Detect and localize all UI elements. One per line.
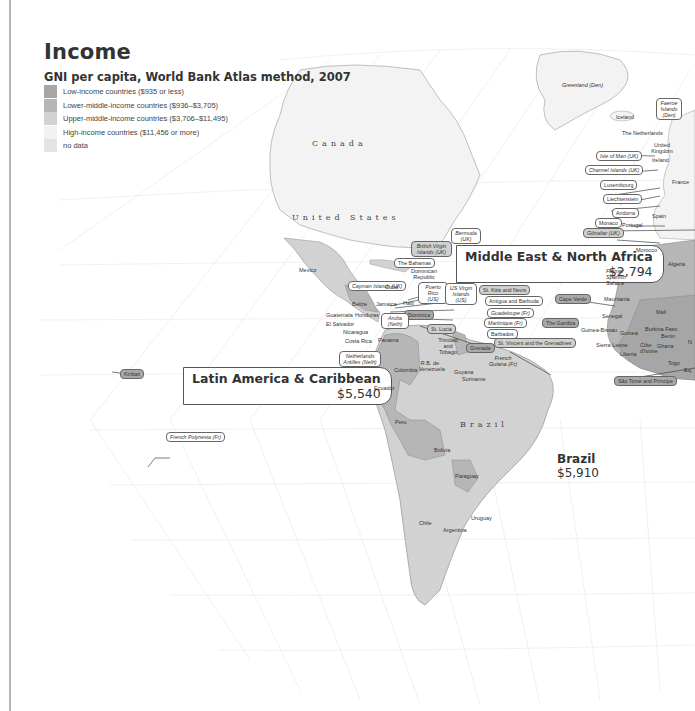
map-title: Income [44,40,131,64]
label-french-guiana: French Guiana (Fr) [488,355,518,367]
label-guinea: Guinea [620,330,638,336]
pill-the-gambia: The Gambia [542,318,579,328]
label-netherlands: The Netherlands [622,130,663,136]
legend-label: Low-income countries ($935 or less) [63,87,184,96]
pill-grenada: Grenada [466,343,495,353]
pill-aruba: Aruba (Neth) [381,313,409,329]
label-chile: Chile [419,520,432,526]
label-dominican-republic: Dominican Republic [409,268,439,280]
map-subtitle: GNI per capita, World Bank Atlas method,… [44,70,351,84]
label-algeria: Algeria [668,261,685,267]
region-box-middle-east-north-africa: Middle East & North Africa $2,794 [456,245,664,283]
label-canada: Canada [312,139,367,148]
label-senegal: Senegal [602,313,622,319]
pill-british-virgin-islands: British Virgin Islands (UK) [411,241,452,257]
pill-st-kitts-nevis: St. Kitts and Nevis [479,285,530,295]
label-bolivia: Bolivia [434,447,450,453]
callout-brazil: Brazil $5,910 [557,452,599,480]
pill-martinique: Martinique (Fr) [484,318,527,328]
label-cuba: Cuba [385,284,398,290]
legend-swatch [44,139,57,152]
pill-cape-verde: Cape Verde [555,294,591,304]
label-united-states: United States [292,213,400,222]
label-spain: Spain [652,213,666,219]
label-costa-rica: Costa Rica [345,338,372,344]
legend-item-lower-middle-income: Lower-middle-income countries ($936–$3,7… [44,99,228,113]
pill-st-vincent-grenadines: St. Vincent and the Grenadines [494,338,576,348]
pill-guadeloupe: Guadeloupe (Fr) [487,308,534,318]
label-niger-partial: N [688,339,692,345]
label-liberia: Liberia [620,351,637,357]
label-uruguay: Uruguay [471,515,492,521]
pill-french-polynesia: French Polynesia (Fr) [166,432,225,442]
legend-label: Upper-middle-income countries ($3,706–$1… [63,114,228,123]
legend: Low-income countries ($935 or less) Lowe… [44,85,228,153]
label-jamaica: Jamaica [376,301,396,307]
legend-swatch [44,126,57,139]
label-ghana: Ghana [657,343,674,349]
label-benin: Benin [661,333,675,339]
label-trinidad-tobago: Trinidad and Tobago [436,337,460,355]
pill-us-virgin-islands: US Virgin Islands (US) [445,283,477,305]
label-greenland: Greenland (Den) [562,82,603,88]
legend-item-no-data: no data [44,139,228,153]
label-equatorial-guinea-partial: Eq. [684,367,692,373]
pill-antigua-barbuda: Antigua and Barbuda [485,296,543,306]
pill-gibraltar: Gibraltar (UK) [583,228,624,238]
pill-channel-islands: Channel Islands (UK) [585,165,643,175]
legend-item-low-income: Low-income countries ($935 or less) [44,85,228,99]
pill-andorra: Andorra [612,208,639,218]
label-united-kingdom: United Kingdom [648,142,676,154]
pill-puerto-rico: Puerto Rico (US) [418,282,448,304]
label-morocco: Morocco [636,247,657,253]
label-nicaragua: Nicaragua [343,329,368,335]
label-panama: Panama [378,337,399,343]
pill-kiribati: Kiribati [120,369,144,379]
label-guyana: Guyana [454,369,473,375]
label-togo: Togo [668,360,680,366]
pill-bahamas: The Bahamas [394,258,435,268]
label-burkina-faso: Burkina Faso [645,326,677,332]
label-honduras: Honduras [355,312,379,318]
label-mexico: Mexico [299,267,316,273]
label-ireland: Ireland [652,157,669,163]
label-venezuela: R.B. de Venezuela [419,360,441,372]
pill-sao-tome-principe: São Tomé and Príncipe [614,376,677,386]
label-france: France [672,179,689,185]
region-name: Middle East & North Africa [465,249,653,264]
region-name: Latin America & Caribbean [192,371,381,386]
legend-item-upper-middle-income: Upper-middle-income countries ($3,706–$1… [44,112,228,126]
label-argentina: Argentina [443,527,467,533]
label-suriname: Suriname [462,376,486,382]
label-el-salvador: El Salvador [326,321,354,327]
region-box-latin-america-caribbean: Latin America & Caribbean $5,540 [183,367,392,405]
label-haiti: Haiti [403,300,414,306]
pill-isle-of-man: Isle of Man (UK) [596,151,642,161]
legend-item-high-income: High-income countries ($11,456 or more) [44,126,228,140]
label-guatemala: Guatemala [326,312,353,318]
legend-swatch [44,112,57,125]
legend-swatch [44,99,57,112]
label-brazil-map: Brazil [460,420,508,429]
label-paraguay: Paraguay [455,473,479,479]
callout-name: Brazil [557,452,599,466]
label-mauritania: Mauritania [604,296,630,302]
label-sierra-leone: Sierra Leone [596,342,628,348]
pill-st-lucia: St. Lucia [427,324,456,334]
pill-liechtenstein: Liechtenstein [603,194,642,204]
pill-luxembourg: Luxembourg [600,180,637,190]
legend-label: High-income countries ($11,456 or more) [63,128,199,137]
legend-label: no data [63,141,88,150]
region-value: $5,540 [192,386,381,401]
legend-swatch [44,85,57,98]
label-guinea-bissau: Guinea-Bissau [581,327,617,333]
callout-value: $5,910 [557,466,599,480]
pill-bermuda: Bermuda (UK) [451,228,481,244]
pill-monaco: Monaco [595,218,622,228]
label-mali: Mali [656,309,666,315]
pill-faeroe-islands: Faeroe Islands (Den) [656,98,682,120]
legend-label: Lower-middle-income countries ($936–$3,7… [63,101,218,110]
label-ecuador: Ecuador [374,385,395,391]
label-belize: Belize [352,301,367,307]
label-former-spanish-sahara: Former Spanish Sahara [606,268,630,286]
